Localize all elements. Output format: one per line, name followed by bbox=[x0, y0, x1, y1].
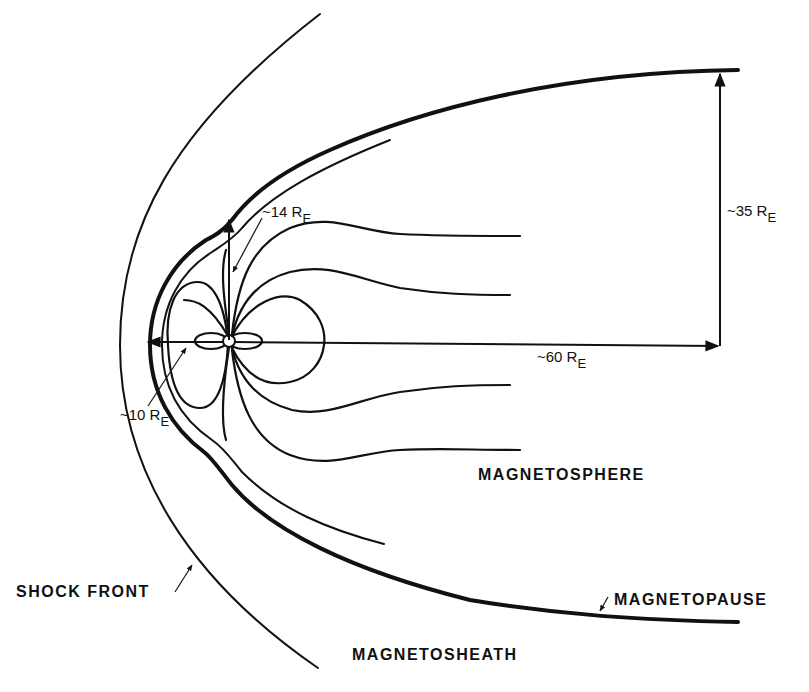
magnetopause-label: MAGNETOPAUSE bbox=[614, 591, 767, 608]
shock-front-label: SHOCK FRONT bbox=[16, 583, 150, 600]
inner-boundary-upper bbox=[162, 140, 390, 345]
field-line-cusp-south bbox=[223, 347, 229, 440]
field-line-tail-upper-1 bbox=[232, 269, 510, 336]
tail-length-arrow bbox=[234, 342, 718, 346]
field-line-nightside-loop bbox=[232, 297, 324, 384]
tail-length-label: ~60 RE bbox=[537, 348, 586, 371]
magnetosheath-label: MAGNETOSHEATH bbox=[352, 646, 518, 663]
magnetopause-leader bbox=[600, 597, 608, 611]
cusp-distance-label: ~14 RE bbox=[262, 203, 311, 226]
field-line-tail-lower-2 bbox=[232, 350, 520, 461]
tail-radius-label: ~35 RE bbox=[727, 202, 776, 225]
subsolar-distance-label: ~10 RE bbox=[120, 406, 169, 429]
magnetosphere-diagram: ~14 RE ~10 RE ~60 RE ~35 RE MAGNETOSPHER… bbox=[0, 0, 809, 692]
magnetosphere-label: MAGNETOSPHERE bbox=[478, 466, 645, 483]
field-line-tail-lower-1 bbox=[232, 348, 510, 412]
shock-front-leader bbox=[175, 565, 192, 592]
cusp-label-leader bbox=[233, 218, 262, 272]
